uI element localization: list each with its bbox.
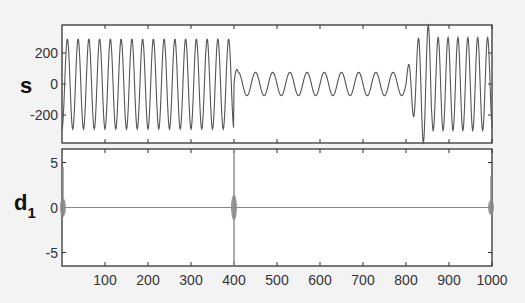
signal-ylabel: s	[20, 73, 32, 98]
x-tick-label: 300	[179, 272, 203, 288]
y-tick-label: 5	[50, 155, 58, 171]
x-tick-label: 900	[437, 272, 461, 288]
x-tick-label: 200	[136, 272, 160, 288]
x-tick-label: 1000	[476, 272, 507, 288]
x-tick-label: 100	[93, 272, 117, 288]
y-tick-label: 0	[50, 200, 58, 216]
x-tick-label: 800	[394, 272, 418, 288]
x-tick-label: 500	[265, 272, 289, 288]
x-tick-label: 700	[351, 272, 375, 288]
y-tick-label: 0	[50, 76, 58, 92]
y-tick-label: -200	[30, 107, 58, 123]
burst	[231, 195, 237, 221]
signal-ytick-labels: 2000-200	[30, 45, 58, 123]
detail-axes: 50-5 1002003004005006007008009001000 d1	[14, 149, 508, 288]
x-tick-label: 400	[222, 272, 246, 288]
signal-axes: 2000-200 s	[20, 25, 492, 143]
y-tick-label: -5	[46, 245, 59, 261]
figure: 2000-200 s 50-5 100200300400500600700800…	[0, 0, 525, 303]
detail-ylabel: d1	[14, 190, 36, 221]
y-tick-label: 200	[35, 45, 59, 61]
x-axis-tick-labels: 1002003004005006007008009001000	[93, 272, 507, 288]
burst	[488, 200, 494, 215]
x-tick-label: 600	[308, 272, 332, 288]
burst	[60, 198, 66, 216]
detail-ytick-labels: 50-5	[46, 155, 59, 261]
